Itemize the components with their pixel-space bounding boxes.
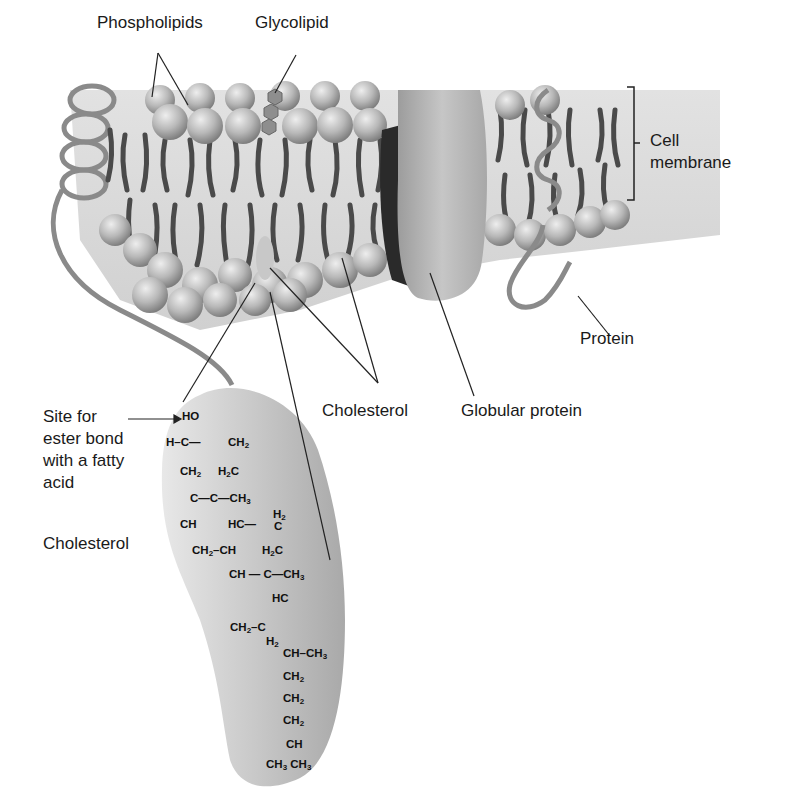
label-site-line2: ester bond [43, 428, 123, 450]
chem-h-c: H–C— [166, 436, 201, 448]
label-cholesterol-membrane: Cholesterol [322, 400, 408, 422]
membrane-diagram: Phospholipids Glycolipid Cell membrane P… [0, 0, 795, 807]
label-protein: Protein [580, 328, 634, 350]
chem-ch-ch3: CH–CH3 [283, 647, 327, 663]
chem-c-a: C [274, 520, 282, 532]
chem-hc-a: HC— [228, 518, 256, 530]
chem-ch2-a: CH2 [228, 436, 249, 452]
chem-ch: CH [180, 518, 197, 530]
chem-chain-1: CH2 [283, 670, 304, 686]
chem-ho: HO [182, 410, 199, 422]
chem-ch-c-ch3: CH — C—CH3 [229, 568, 304, 584]
chem-h2c-a: H2C [218, 465, 239, 481]
chem-h2c-b: H2C [262, 544, 283, 560]
label-cell-membrane-line2: membrane [650, 152, 731, 174]
chem-ch2-c: CH2–C [230, 621, 266, 637]
label-site-line3: with a fatty [43, 450, 124, 472]
label-globular-protein: Globular protein [461, 400, 582, 422]
label-glycolipid: Glycolipid [255, 12, 329, 34]
label-phospholipids: Phospholipids [97, 12, 203, 34]
label-cholesterol-structure: Cholesterol [43, 533, 129, 555]
chem-h2-b: H2 [266, 635, 279, 651]
chem-ch2-ch: CH2–CH [192, 544, 236, 560]
chem-ch2-b: CH2 [180, 465, 201, 481]
label-cell-membrane-line1: Cell [650, 130, 679, 152]
chem-c-c-ch3: C—C—CH3 [190, 492, 251, 508]
chem-chain-3: CH2 [283, 714, 304, 730]
label-site-line1: Site for [43, 406, 97, 428]
chem-chain-2: CH2 [283, 692, 304, 708]
chem-terminal: CH3 CH3 [266, 758, 311, 774]
membrane-cholesterol-molecule [256, 236, 274, 280]
chem-chain-ch: CH [286, 738, 303, 750]
label-site-line4: acid [43, 472, 74, 494]
chem-hc-b: HC [272, 592, 289, 604]
